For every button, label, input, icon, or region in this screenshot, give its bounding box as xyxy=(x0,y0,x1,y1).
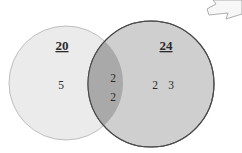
right-only-element: 2 xyxy=(152,79,158,91)
right-only-element: 3 xyxy=(168,79,174,91)
left-only-element: 5 xyxy=(58,79,64,91)
venn-diagram: 20 24 5 2 2 2 3 xyxy=(0,0,242,153)
set-right-total: 24 xyxy=(160,38,174,53)
arrow-right-outline-icon xyxy=(207,0,242,19)
set-left-total: 20 xyxy=(56,38,69,53)
intersection-element: 2 xyxy=(110,91,116,103)
intersection-element: 2 xyxy=(110,72,116,84)
